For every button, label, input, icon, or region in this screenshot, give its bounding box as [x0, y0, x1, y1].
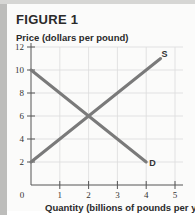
y-tick-label: 8	[20, 88, 25, 98]
y-tick-label: 10	[15, 65, 25, 75]
supply-curve-label: S	[162, 49, 168, 59]
y-tick-label: 12	[15, 42, 24, 52]
demand-curve-label: D	[149, 158, 156, 168]
y-tick-label: 2	[20, 157, 25, 167]
x-tick-label: 3	[115, 190, 120, 200]
supply-demand-chart: 24681012012345SD	[0, 0, 195, 215]
x-tick-label: 0	[20, 190, 25, 200]
x-tick-label: 5	[173, 190, 178, 200]
supply-curve	[31, 59, 161, 163]
x-tick-label: 2	[86, 190, 91, 200]
y-tick-label: 4	[20, 134, 25, 144]
x-tick-label: 1	[58, 190, 63, 200]
y-tick-label: 6	[20, 111, 25, 121]
x-tick-label: 4	[144, 190, 149, 200]
